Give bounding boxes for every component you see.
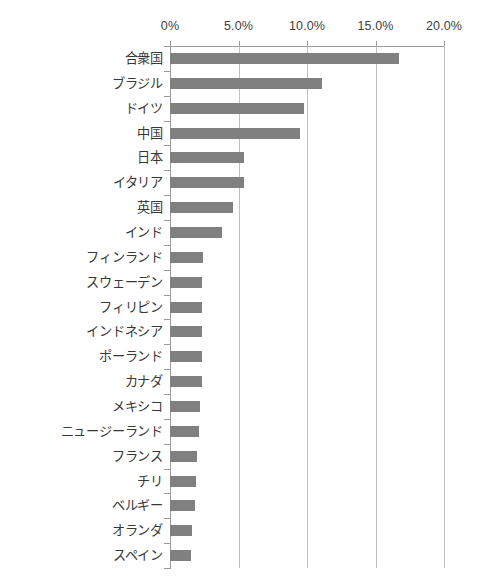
x-axis-tick-label: 20.0% bbox=[426, 19, 462, 33]
y-axis-category-label: フランス bbox=[0, 444, 163, 470]
bar bbox=[170, 302, 202, 313]
y-axis-category-label: イタリア bbox=[0, 170, 163, 196]
bar bbox=[170, 500, 195, 511]
x-axis-tick-label: 0% bbox=[161, 19, 179, 33]
y-axis-category-label: 日本 bbox=[0, 145, 163, 171]
bar bbox=[170, 550, 191, 561]
y-axis-category-label: ニュージーランド bbox=[0, 419, 163, 445]
bar bbox=[170, 78, 322, 89]
bar bbox=[170, 426, 199, 437]
bar bbox=[170, 128, 300, 139]
bar bbox=[170, 103, 304, 114]
bar bbox=[170, 376, 202, 387]
bar bbox=[170, 326, 202, 337]
plot-area bbox=[170, 46, 444, 568]
bar bbox=[170, 252, 203, 263]
y-axis-category-label: フィンランド bbox=[0, 245, 163, 271]
x-axis-tick-label: 5.0% bbox=[224, 19, 253, 33]
y-axis-category-label: 合衆国 bbox=[0, 46, 163, 72]
y-axis-category-label: ポーランド bbox=[0, 344, 163, 370]
y-axis-category-label: フィリピン bbox=[0, 295, 163, 321]
bar bbox=[170, 401, 200, 412]
y-axis-category-label: オランダ bbox=[0, 518, 163, 544]
gridline bbox=[444, 46, 445, 568]
gridline bbox=[239, 46, 240, 568]
bar bbox=[170, 227, 222, 238]
y-axis-category-label: ベルギー bbox=[0, 493, 163, 519]
x-axis-tick-label: 10.0% bbox=[289, 19, 325, 33]
bar bbox=[170, 351, 202, 362]
bar bbox=[170, 53, 399, 64]
y-axis-category-label: カナダ bbox=[0, 369, 163, 395]
y-axis-category-label: 中国 bbox=[0, 121, 163, 147]
bar bbox=[170, 202, 233, 213]
bar bbox=[170, 277, 202, 288]
y-axis-category-label: ブラジル bbox=[0, 71, 163, 97]
y-axis-category-labels: 合衆国ブラジルドイツ中国日本イタリア英国インドフィンランドスウェーデンフィリピン… bbox=[0, 46, 163, 568]
y-axis-category-label: メキシコ bbox=[0, 394, 163, 420]
y-axis-category-label: スウェーデン bbox=[0, 270, 163, 296]
y-axis-category-label: チリ bbox=[0, 469, 163, 495]
x-axis-tick-label: 15.0% bbox=[358, 19, 394, 33]
y-axis-category-label: インドネシア bbox=[0, 319, 163, 345]
bar bbox=[170, 476, 196, 487]
bar bbox=[170, 451, 197, 462]
y-axis-category-label: 英国 bbox=[0, 195, 163, 221]
y-axis-category-label: ドイツ bbox=[0, 96, 163, 122]
bar-chart: 0%5.0%10.0%15.0%20.0% 合衆国ブラジルドイツ中国日本イタリア… bbox=[0, 0, 483, 587]
gridline bbox=[307, 46, 308, 568]
bar bbox=[170, 152, 244, 163]
gridline bbox=[376, 46, 377, 568]
y-axis-category-label: スペイン bbox=[0, 543, 163, 569]
bar bbox=[170, 525, 192, 536]
y-axis-category-label: インド bbox=[0, 220, 163, 246]
y-axis-tick-mark bbox=[164, 568, 170, 569]
bar bbox=[170, 177, 244, 188]
